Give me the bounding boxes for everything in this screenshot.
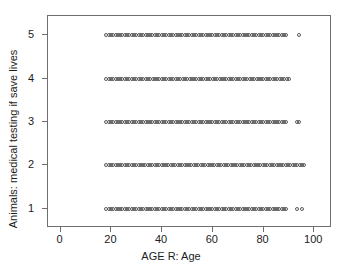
x-tick-mark bbox=[60, 227, 61, 232]
data-point-outlier bbox=[297, 120, 301, 124]
data-point-outlier bbox=[295, 207, 299, 211]
x-tick-label: 0 bbox=[57, 233, 63, 245]
x-tick-label: 60 bbox=[206, 233, 218, 245]
x-tick-label: 40 bbox=[155, 233, 167, 245]
x-tick-mark bbox=[313, 227, 314, 232]
data-point bbox=[284, 120, 288, 124]
data-point bbox=[284, 33, 288, 37]
data-point bbox=[284, 207, 288, 211]
data-point-outlier bbox=[300, 207, 304, 211]
x-tick-label: 100 bbox=[304, 233, 322, 245]
data-point-layer bbox=[48, 16, 330, 226]
y-tick-label: 1 bbox=[28, 202, 34, 214]
y-axis-title-text: Animals: medical testing if save lives bbox=[7, 49, 19, 228]
x-tick-mark bbox=[110, 227, 111, 232]
x-tick-mark bbox=[161, 227, 162, 232]
x-tick-mark bbox=[263, 227, 264, 232]
plot-area bbox=[47, 15, 331, 227]
y-tick-label: 4 bbox=[28, 72, 34, 84]
x-tick-label: 20 bbox=[104, 233, 116, 245]
x-tick-label: 80 bbox=[256, 233, 268, 245]
y-tick-label: 3 bbox=[28, 115, 34, 127]
x-axis-title: AGE R: Age bbox=[0, 250, 342, 262]
y-axis-title: Animals: medical testing if save lives bbox=[6, 0, 20, 277]
data-point bbox=[287, 77, 291, 81]
x-tick-mark bbox=[212, 227, 213, 232]
data-point-outlier bbox=[297, 33, 301, 37]
y-tick-label: 2 bbox=[28, 158, 34, 170]
scatter-plot-figure: Animals: medical testing if save lives 1… bbox=[0, 0, 342, 277]
data-point bbox=[302, 163, 306, 167]
y-tick-label: 5 bbox=[28, 28, 34, 40]
